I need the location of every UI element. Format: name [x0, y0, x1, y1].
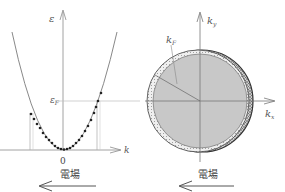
- kx-axis-label: kx: [265, 108, 275, 120]
- origin-label: 0: [60, 156, 66, 166]
- electric-field-label-left: 電場: [60, 168, 80, 180]
- occupied-states: [30, 92, 103, 151]
- k-axis-label: k: [124, 145, 129, 155]
- ky-axis-label: ky: [207, 15, 217, 28]
- diagram-canvas: ε εF k 0 電場 ky kx kF 電場: [0, 0, 285, 192]
- energy-axis-label: ε: [49, 13, 54, 24]
- electric-field-label-right: 電場: [198, 168, 218, 180]
- fermi-sphere-plot: ky kx kF 電場: [145, 12, 275, 191]
- dispersion-curve: [12, 32, 117, 150]
- fermi-energy-label: εF: [50, 95, 60, 106]
- fermi-wavevector-label: kF: [166, 34, 177, 46]
- dispersion-plot: ε εF k 0 電場: [0, 10, 140, 191]
